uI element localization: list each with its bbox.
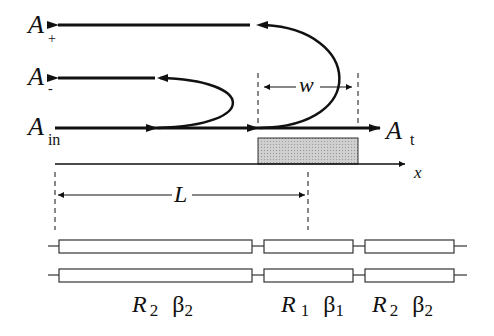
label-w: w <box>299 74 314 96</box>
a-minus-path <box>58 74 233 128</box>
a-plus-path <box>58 21 339 128</box>
label-l: L <box>174 182 187 206</box>
fiber-row-1 <box>48 240 467 253</box>
label-a-t: At <box>386 118 414 148</box>
label-x-axis: x <box>414 164 422 181</box>
label-a-minus: A- <box>28 64 53 96</box>
label-a-plus: A+ <box>28 12 56 46</box>
section-label-2: R1 β1 <box>281 292 344 319</box>
label-a-in: Ain <box>28 114 60 148</box>
section-label-3: R2 β2 <box>372 292 433 319</box>
grating-region <box>258 138 358 164</box>
fiber-row-2 <box>48 269 467 282</box>
section-label-1: R2 β2 <box>132 292 193 319</box>
